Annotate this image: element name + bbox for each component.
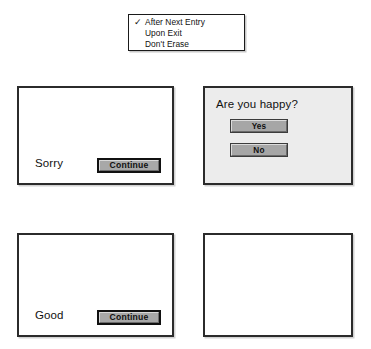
yes-button[interactable]: Yes — [230, 119, 288, 133]
button-face: No — [231, 144, 287, 156]
no-button[interactable]: No — [230, 143, 288, 157]
blank-dialog — [203, 233, 353, 337]
button-face: Continue — [99, 160, 159, 171]
menu-item-after-next-entry[interactable]: ✓ After Next Entry — [129, 17, 244, 28]
menu-item-dont-erase[interactable]: Don't Erase — [129, 39, 244, 50]
no-button-label: No — [253, 146, 264, 155]
checkmark-icon: ✓ — [134, 17, 144, 28]
good-dialog: Good Continue — [17, 233, 174, 337]
button-face: Yes — [231, 120, 287, 132]
erase-timing-menu[interactable]: ✓ After Next Entry Upon Exit Don't Erase — [128, 14, 245, 51]
continue-button-label: Continue — [110, 161, 149, 170]
checkmark-icon-placeholder — [134, 39, 144, 50]
sorry-message: Sorry — [35, 157, 63, 170]
happy-question-text: Are you happy? — [216, 97, 298, 111]
happy-question-dialog: Are you happy? Yes No — [203, 86, 353, 185]
continue-button[interactable]: Continue — [97, 158, 161, 173]
good-message: Good — [35, 309, 64, 322]
continue-button[interactable]: Continue — [97, 310, 161, 325]
checkmark-icon-placeholder — [134, 28, 144, 39]
menu-item-label: Upon Exit — [145, 28, 182, 38]
sorry-dialog: Sorry Continue — [17, 86, 174, 185]
continue-button-label: Continue — [110, 313, 149, 322]
menu-item-label: Don't Erase — [145, 39, 189, 49]
menu-item-upon-exit[interactable]: Upon Exit — [129, 28, 244, 39]
menu-item-label: After Next Entry — [145, 17, 205, 27]
button-face: Continue — [99, 312, 159, 323]
yes-button-label: Yes — [252, 122, 267, 131]
screenshot-canvas: ✓ After Next Entry Upon Exit Don't Erase… — [0, 0, 371, 349]
